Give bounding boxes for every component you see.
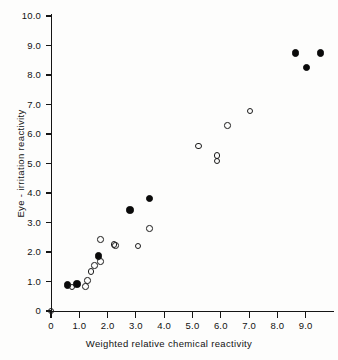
data-point-filled <box>292 49 299 56</box>
data-point-open <box>48 308 55 315</box>
x-axis-title: Weighted relative chemical reactivity <box>0 338 338 349</box>
data-point-open <box>224 122 231 129</box>
plot-data-area <box>0 0 338 360</box>
data-point-open <box>84 277 91 284</box>
data-point-open <box>88 268 95 275</box>
data-point-open <box>112 242 119 249</box>
data-point-open <box>146 225 153 232</box>
data-point-open <box>69 284 76 291</box>
data-point-filled <box>126 206 133 213</box>
data-point-open <box>214 158 221 165</box>
data-point-open <box>97 236 104 243</box>
data-point-filled <box>146 195 153 202</box>
data-point-open <box>135 243 142 250</box>
data-point-open <box>97 258 104 265</box>
data-point-open <box>247 108 254 115</box>
y-axis-title: Eye - irritation reactivity <box>15 74 26 254</box>
scatter-chart-figure: 01.02.03.04.05.06.07.08.09.010.0 01.02.0… <box>0 0 338 360</box>
data-point-filled <box>317 49 324 56</box>
data-point-open <box>195 143 202 150</box>
data-point-filled <box>303 64 310 71</box>
